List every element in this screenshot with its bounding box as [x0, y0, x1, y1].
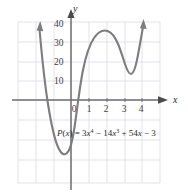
x-tick-1: 1: [87, 104, 92, 114]
polynomial-graph-figure: y x 10 20 30 40 0 1 2 3 4 P(x) = 3x4: [0, 0, 188, 193]
y-axis-label: y: [72, 3, 78, 14]
y-tick-10: 10: [54, 76, 64, 86]
x-tick-4: 4: [139, 104, 144, 114]
y-tick-20: 20: [54, 57, 64, 67]
equation-label: P(x) = 3x4 − 14x3 + 54x − 3: [56, 128, 156, 138]
x-tick-2: 2: [104, 104, 109, 114]
y-tick-40: 40: [54, 19, 64, 29]
y-tick-30: 30: [54, 38, 64, 48]
x-axis-label: x: [172, 94, 178, 105]
x-tick-3: 3: [122, 104, 127, 114]
